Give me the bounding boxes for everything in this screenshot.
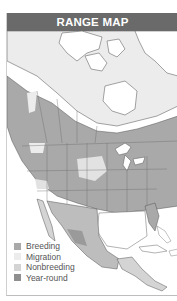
range-map-card: RANGE MAP [6,13,177,296]
map-legend: Breeding Migration Nonbreeding Year-roun… [14,241,75,283]
legend-label: Nonbreeding [26,262,75,272]
legend-item-nonbreeding: Nonbreeding [14,262,75,273]
migration-swatch [14,253,21,260]
legend-label: Year-round [26,273,68,283]
legend-item-breeding: Breeding [14,241,75,252]
legend-label: Migration [26,252,61,262]
year-round-swatch [14,274,21,281]
legend-label: Breeding [26,241,60,251]
legend-item-year-round: Year-round [14,273,75,284]
legend-item-migration: Migration [14,252,75,263]
nonbreeding-swatch [14,264,21,271]
range-map-title: RANGE MAP [7,13,177,31]
breeding-swatch [14,243,21,250]
